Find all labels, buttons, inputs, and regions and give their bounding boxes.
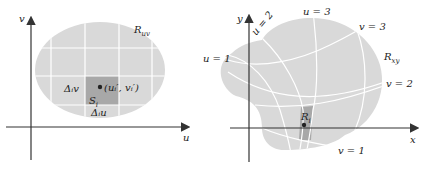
sample-point-xy: [302, 123, 306, 127]
y-axis-label: y: [236, 13, 243, 24]
delta-v-label: Δᵢv: [63, 83, 79, 94]
left-panel-uv-plane: v u Ruv Δᵢv Δᵢu Si (uᵢ′, vᵢ′): [0, 0, 200, 170]
curve-label-v1: v = 1: [338, 145, 365, 156]
x-axis-label: x: [410, 134, 416, 145]
curve-label-u1: u = 1: [203, 53, 231, 64]
right-panel-xy-plane: y x Rxy Ri u = 1 u = 2 u = 3 v = 3 v = 2…: [203, 6, 417, 162]
curve-label-u3: u = 3: [303, 6, 331, 17]
delta-u-label: Δᵢu: [90, 107, 107, 118]
change-of-variables-diagram: v u Ruv Δᵢv Δᵢu Si (uᵢ′, vᵢ′) y x Rxy Ri: [0, 0, 427, 170]
v-axis-label: v: [19, 13, 25, 24]
u-axis-label: u: [183, 132, 189, 143]
region-rxy-label: Rxy: [383, 51, 400, 65]
curve-label-v3: v = 3: [359, 21, 386, 32]
sample-point: [98, 85, 102, 89]
curve-label-v2: v = 2: [386, 78, 413, 89]
sample-point-label: (uᵢ′, vᵢ′): [104, 82, 139, 93]
